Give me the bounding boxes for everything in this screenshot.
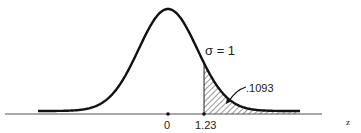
- normal-curve: [38, 9, 300, 111]
- tick-dot-123: [202, 112, 206, 116]
- tick-label-0: 0: [164, 119, 170, 131]
- normal-curve-chart: [0, 0, 361, 133]
- tick-dot-0: [166, 112, 170, 116]
- area-pointer-arrow: [229, 87, 246, 101]
- x-axis-label: z: [346, 117, 350, 127]
- sigma-label: σ = 1: [205, 43, 235, 58]
- tick-label-1-23: 1.23: [195, 119, 216, 131]
- area-value-label: .1093: [246, 82, 274, 94]
